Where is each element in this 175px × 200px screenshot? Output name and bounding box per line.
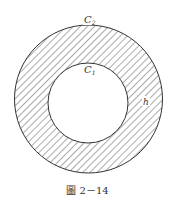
annulus-diagram: C2 C1 h — [0, 0, 175, 200]
label-h: h — [143, 97, 149, 107]
inner-circle-c1 — [48, 63, 128, 143]
figure-caption: 圖 2－14 — [0, 182, 175, 197]
